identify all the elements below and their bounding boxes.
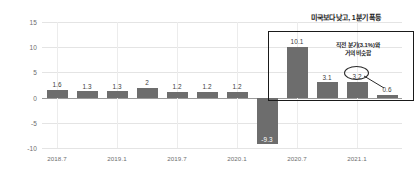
y-axis-tick-15: 15	[3, 19, 37, 26]
bar-label-2020-4: -9.3	[261, 136, 272, 143]
x-axis-tick-2021-1: 2021.1	[347, 155, 367, 162]
bar-2019-7	[167, 92, 188, 98]
bar-label-2019-1: 1.3	[112, 83, 121, 90]
y-axis-tick-minus5: -5	[3, 119, 37, 126]
bar-2020-10	[317, 82, 338, 98]
y-axis-tick-minus10: -10	[3, 145, 37, 152]
leader-line-icon	[364, 76, 386, 90]
callout-title: 미국보다 낮고, 1분기 폭등	[276, 12, 416, 22]
bar-label-2019-7: 1.2	[172, 83, 181, 90]
x-axis-tick-2019-1: 2019.1	[107, 155, 127, 162]
bar-2020-1	[227, 92, 248, 98]
bar-label-2020-1: 1.2	[232, 83, 241, 90]
callout-note-line-1: 직전 분기(3.1%)와	[310, 42, 406, 50]
x-axis-tick-2018-7: 2018.7	[47, 155, 67, 162]
gridline-zero	[42, 98, 402, 99]
bar-label-2018-7: 1.6	[52, 81, 61, 88]
x-axis-tick-2020-1: 2020.1	[227, 155, 247, 162]
callout-note-line-2: 거의 비슷함	[310, 50, 406, 58]
bar-2018-7	[47, 90, 68, 98]
gridline-minus10	[42, 148, 402, 149]
gridline-15	[42, 22, 402, 23]
x-axis-tick-2019-7: 2019.7	[167, 155, 187, 162]
bar-label-2019-4: 2	[145, 79, 149, 86]
y-axis-tick-10: 10	[3, 44, 37, 51]
bar-2019-4	[137, 88, 158, 98]
bar-2019-10	[197, 92, 218, 98]
bar-2021-4	[377, 95, 398, 98]
y-axis-tick-5: 5	[3, 69, 37, 76]
x-axis-tick-2020-7: 2020.7	[287, 155, 307, 162]
bar-2020-7	[287, 47, 308, 98]
bar-label-2019-10: 1.2	[202, 83, 211, 90]
bar-chart: 15 10 5 0 -5 -10 1.6 1.3 1.3 2	[0, 0, 419, 178]
y-axis-tick-0: 0	[3, 94, 37, 101]
bar-2018-10	[77, 91, 98, 98]
plot-area: 1.6 1.3 1.3 2 1.2 1.2 1.2 -9.3 10.1 3.1 …	[42, 22, 402, 148]
bar-label-2018-10: 1.3	[82, 83, 91, 90]
gridline-minus5	[42, 123, 402, 124]
bar-label-2020-10: 3.1	[322, 74, 331, 81]
bar-label-2020-7: 10.1	[291, 38, 304, 45]
bar-2019-1	[107, 91, 128, 98]
callout-note: 직전 분기(3.1%)와 거의 비슷함	[310, 42, 406, 58]
